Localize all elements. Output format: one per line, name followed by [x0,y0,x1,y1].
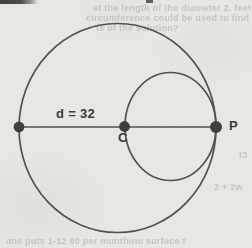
center-label: C [118,130,128,145]
diameter-label: d = 32 [56,106,95,121]
left-endpoint-dot [14,122,25,133]
point-p-dot [210,121,222,133]
scanned-textbook-figure: st the length of the diameter 2. feetcir… [0,0,252,248]
point-p-label: P [229,118,238,133]
large-circle [19,24,216,233]
diagram-svg [0,0,252,248]
